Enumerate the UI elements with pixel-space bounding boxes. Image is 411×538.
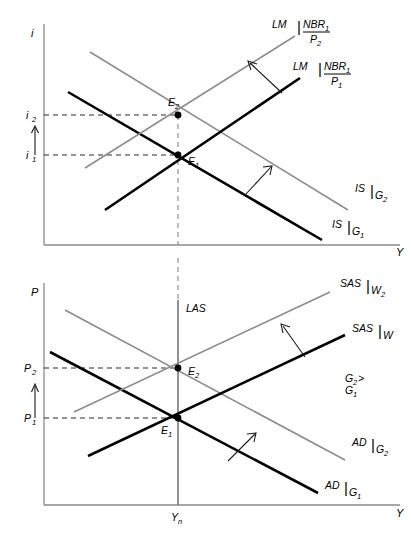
equilibrium-dot-e2-upper xyxy=(175,112,182,119)
note-g2-greater-g1: G 2 > G 1 xyxy=(345,372,364,399)
interest-rate-increase-arrow xyxy=(32,126,39,155)
label-sas-w1-main: SAS xyxy=(352,322,373,334)
tick-p1-sub: 1 xyxy=(32,418,36,427)
label-ad-g2: AD | G 2 xyxy=(351,436,389,458)
tick-p2: P 2 xyxy=(24,362,37,377)
equilibrium-label-e1-lower: E 1 xyxy=(161,424,172,439)
lm-shift-arrow xyxy=(248,61,282,93)
equilibrium-dot-e2-lower xyxy=(175,365,182,372)
label-ad-g1-sub: G xyxy=(349,486,357,498)
label-lm-nbr-p2-numerator: NBR xyxy=(303,18,326,30)
lower-x-axis-label: Y xyxy=(396,507,404,519)
price-increase-arrow xyxy=(32,384,39,418)
tick-yn: Y n xyxy=(171,511,182,526)
note-line1-tail: > xyxy=(358,372,364,384)
label-ad-g1: AD | G 1 xyxy=(324,479,361,501)
label-lm-nbr-p1-numerator: NBR xyxy=(324,60,347,72)
tick-p2-label: P xyxy=(24,362,31,374)
label-is-g2-sub: G xyxy=(375,189,383,201)
label-is-g2-subsub: 2 xyxy=(382,195,388,204)
curve-sas-w1 xyxy=(88,335,345,456)
tick-p1-label: P xyxy=(24,412,31,424)
curve-lm-nbr-p1 xyxy=(105,78,300,210)
note-line2-sub: 1 xyxy=(353,390,357,399)
upper-y-axis-label: i xyxy=(31,27,34,39)
label-is-g2: IS | G 2 xyxy=(355,182,388,204)
label-sas-w2-subsub: 2 xyxy=(380,290,386,299)
equilibrium-dot-e1-lower xyxy=(175,415,182,422)
label-sas-w2-main: SAS xyxy=(340,277,361,289)
label-sas-w1-bar: | xyxy=(378,322,382,339)
tick-p2-sub: 2 xyxy=(31,368,37,377)
label-is-g1: IS | G 1 xyxy=(332,218,364,240)
upper-panel: i Y i 2 i 1 E 2 xyxy=(26,18,404,258)
curve-is-g2 xyxy=(90,52,348,210)
label-is-g2-bar: | xyxy=(370,182,374,199)
equilibrium-label-e1-upper-sub: 1 xyxy=(195,161,199,170)
tick-i2-label: i xyxy=(26,109,29,121)
lower-panel: P Y LAS P 2 P 1 Y n xyxy=(24,258,404,526)
tick-i1-sub: 1 xyxy=(32,155,36,164)
label-lm-nbr-p1-main: LM xyxy=(293,60,308,72)
label-lm-nbr-p1-bar: | xyxy=(318,60,322,77)
label-is-g1-sub: G xyxy=(352,225,360,237)
equilibrium-label-e2-lower-sub: 2 xyxy=(194,371,200,380)
equilibrium-label-e2-upper-sub: 2 xyxy=(174,102,180,111)
label-lm-nbr-p2: LM | NBR 1 P 2 xyxy=(272,18,330,48)
label-ad-g1-subsub: 1 xyxy=(357,492,361,501)
tick-i2-sub: 2 xyxy=(31,115,37,124)
is-shift-arrow xyxy=(246,166,272,194)
label-ad-g2-bar: | xyxy=(371,436,375,453)
label-lm-nbr-p1-denominator: P xyxy=(331,75,338,87)
tick-i2: i 2 xyxy=(26,109,37,124)
tick-p1: P 1 xyxy=(24,412,36,427)
label-ad-g2-subsub: 2 xyxy=(383,449,389,458)
label-is-g2-main: IS xyxy=(355,182,365,194)
economics-diagram: i Y i 2 i 1 E 2 xyxy=(0,0,411,538)
equilibrium-label-e1-lower-sub: 1 xyxy=(168,430,172,439)
label-lm-nbr-p2-bar: | xyxy=(297,18,301,35)
label-lm-nbr-p2-denominator-sub: 2 xyxy=(316,39,322,48)
label-lm-nbr-p2-denominator: P xyxy=(310,33,317,45)
label-ad-g1-bar: | xyxy=(344,479,348,496)
equilibrium-label-e1-upper: E 1 xyxy=(188,155,199,170)
note-line2-main: G xyxy=(345,384,353,396)
equilibrium-dot-e1-upper xyxy=(175,152,182,159)
label-lm-nbr-p1-denominator-sub: 1 xyxy=(338,81,342,90)
label-sas-w2: SAS | W 2 xyxy=(340,277,386,299)
note-line1-main: G xyxy=(345,372,353,384)
equilibrium-label-e2-upper: E 2 xyxy=(168,96,180,111)
label-is-g1-subsub: 1 xyxy=(360,231,364,240)
label-is-g1-main: IS xyxy=(332,218,342,230)
label-is-g1-bar: | xyxy=(347,218,351,235)
lower-y-axis-label: P xyxy=(31,286,39,298)
label-sas-w1: SAS | W xyxy=(352,322,394,341)
label-ad-g2-main: AD xyxy=(351,436,367,448)
sas-shift-arrow xyxy=(281,324,305,357)
curve-ad-g2 xyxy=(65,310,345,460)
label-lm-nbr-p2-main: LM xyxy=(272,18,287,30)
upper-x-axis-label: Y xyxy=(396,246,404,258)
label-lm-nbr-p1: LM | NBR 1 P 1 xyxy=(293,60,351,90)
tick-i1-label: i xyxy=(26,149,29,161)
figure-canvas: i Y i 2 i 1 E 2 xyxy=(0,0,411,538)
label-sas-w1-sub: W xyxy=(383,329,394,341)
label-ad-g1-main: AD xyxy=(324,479,340,491)
label-sas-w2-bar: | xyxy=(366,277,370,294)
label-ad-g2-sub: G xyxy=(376,443,384,455)
label-las: LAS xyxy=(186,302,206,314)
tick-yn-sub: n xyxy=(178,517,182,526)
